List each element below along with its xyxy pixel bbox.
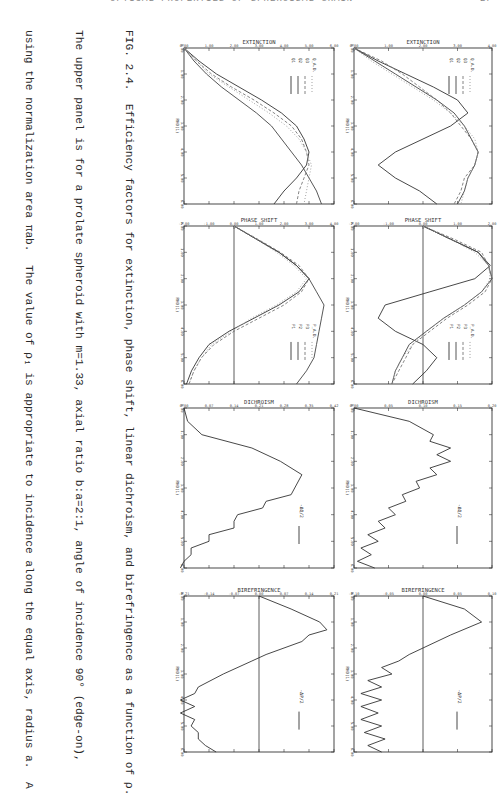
x-axis-label: RHO(1): [345, 666, 350, 681]
tick-label: 1.00: [350, 430, 354, 439]
tick-label: 0.10: [419, 404, 428, 408]
tick-label: 1.00: [205, 44, 214, 48]
tick-label: 0.00: [350, 222, 354, 231]
plot-dichroism-upper: DICHROISM0.000.050.100.150.200.001.002.0…: [345, 399, 496, 572]
data-series: [354, 48, 478, 204]
data-series: [189, 226, 307, 384]
tick-label: 6.00: [330, 44, 339, 48]
plot-birefringence-upper: BIREFRINGENCE-0.10-0.050.000.050.100.001…: [345, 587, 496, 756]
tick-label: 2.00: [350, 274, 354, 283]
tick-label: 5.00: [350, 722, 354, 731]
legend: -ΔP/2: [457, 690, 462, 730]
tick-label: 4.00: [280, 44, 289, 48]
legend-label: P1: [449, 324, 454, 330]
tick-label: 4.00: [180, 148, 184, 157]
legend-label: Q3: [305, 58, 310, 64]
tick-label: 2.00: [180, 644, 184, 653]
tick-label: 4.00: [350, 148, 354, 157]
caption-line: The upper panel is for a prolate spheroi…: [70, 30, 87, 690]
tick-label: 2.00: [180, 457, 184, 466]
tick-label: 6.00: [350, 564, 354, 573]
tick-label: 2.00: [488, 222, 497, 226]
tick-label: 1.00: [350, 618, 354, 627]
data-series: [392, 226, 492, 384]
tick-label: 0.00: [180, 44, 184, 53]
tick-label: 1.00: [180, 618, 184, 627]
tick-label: 0.00: [350, 44, 354, 53]
tick-label: 6.00: [350, 380, 354, 389]
data-series: [354, 408, 451, 568]
legend-label: -ΔQ/2: [299, 504, 304, 518]
data-series: [184, 48, 309, 204]
legend: -ΔP/2: [299, 690, 304, 730]
tick-label: 0.00: [230, 222, 239, 226]
x-axis-label: RHO(1): [175, 666, 180, 681]
legend: P1P2P3P_A.D.: [291, 324, 317, 360]
data-series: [354, 48, 478, 204]
tick-label: -0.14: [204, 592, 215, 596]
plot-extinction-lower: EXTINCTION0.001.002.003.004.005.006.000.…: [175, 39, 338, 208]
data-series: [361, 596, 482, 752]
tick-label: 0.35: [305, 404, 314, 408]
legend-label: Q2: [456, 58, 461, 64]
plot-extinction-upper: EXTINCTION0.001.002.003.004.000.001.002.…: [345, 39, 496, 208]
tick-label: 0.00: [255, 592, 264, 596]
tick-label: 2.00: [419, 44, 428, 48]
legend-label: P_A.D.: [470, 324, 475, 339]
tick-label: 2.00: [350, 96, 354, 105]
legend-label: -ΔP/2: [299, 690, 304, 704]
tick-label: 4.00: [350, 510, 354, 519]
tick-label: 2.00: [230, 44, 239, 48]
legend-label: P_A.D.: [312, 324, 317, 339]
tick-label: -1.00: [383, 222, 394, 226]
tick-label: 3.00: [453, 44, 462, 48]
tick-label: 0.20: [488, 404, 497, 408]
tick-label: 0.00: [419, 592, 428, 596]
tick-label: 2.00: [350, 457, 354, 466]
tick-label: 5.00: [180, 353, 184, 362]
tick-label: 0.28: [280, 404, 289, 408]
tick-label: 4.00: [330, 222, 339, 226]
legend: Q1Q2Q3Q_A.D.: [291, 58, 317, 94]
tick-label: 6.00: [180, 380, 184, 389]
tick-label: 4.00: [350, 327, 354, 336]
legend: P1P2P3P_A.D.: [449, 324, 475, 360]
figure-caption-area: FIG. 2.4. Efficiency factors for extinct…: [0, 0, 170, 800]
tick-label: 0.05: [453, 592, 462, 596]
tick-label: 5.00: [305, 44, 314, 48]
tick-label: 0.07: [205, 404, 214, 408]
figure-caption: FIG. 2.4. Efficiency factors for extinct…: [0, 30, 170, 690]
tick-label: 5.00: [350, 537, 354, 546]
data-series: [180, 408, 302, 568]
tick-label: 0.10: [488, 592, 497, 596]
data-series: [184, 48, 309, 204]
tick-label: 1.00: [350, 248, 354, 257]
tick-label: 2.00: [180, 96, 184, 105]
plot-phase-shift-upper: PHASE SHIFT-2.00-1.000.001.002.000.001.0…: [345, 217, 496, 388]
legend-label: Q_A.D.: [312, 58, 317, 73]
tick-label: 1.00: [180, 70, 184, 79]
tick-label: 0.00: [350, 592, 354, 601]
data-series: [354, 48, 478, 204]
legend-label: Q2: [298, 58, 303, 64]
tick-label: 0.14: [305, 592, 314, 596]
legend-label: -ΔQ/2: [457, 504, 462, 518]
tick-label: 5.00: [350, 353, 354, 362]
tick-label: 0.00: [180, 592, 184, 601]
tick-label: 3.00: [255, 44, 264, 48]
data-series: [184, 48, 322, 204]
legend-label: Q_A.D.: [470, 58, 475, 73]
legend-label: -ΔP/2: [457, 690, 462, 704]
tick-label: 0.00: [180, 404, 184, 413]
x-axis-label: RHO(1): [345, 480, 350, 495]
tick-label: 4.00: [180, 327, 184, 336]
data-series: [354, 48, 468, 204]
tick-label: 0.00: [419, 222, 428, 226]
legend: Q1Q2Q3Q_A.D.: [449, 58, 475, 94]
legend-label: Q3: [463, 58, 468, 64]
tick-label: 0.21: [255, 404, 264, 408]
figure-svg: EXTINCTION0.001.002.003.004.000.001.002.…: [172, 36, 504, 800]
tick-label: -0.07: [229, 592, 240, 596]
tick-label: 2.00: [350, 644, 354, 653]
legend-label: P3: [463, 324, 468, 330]
